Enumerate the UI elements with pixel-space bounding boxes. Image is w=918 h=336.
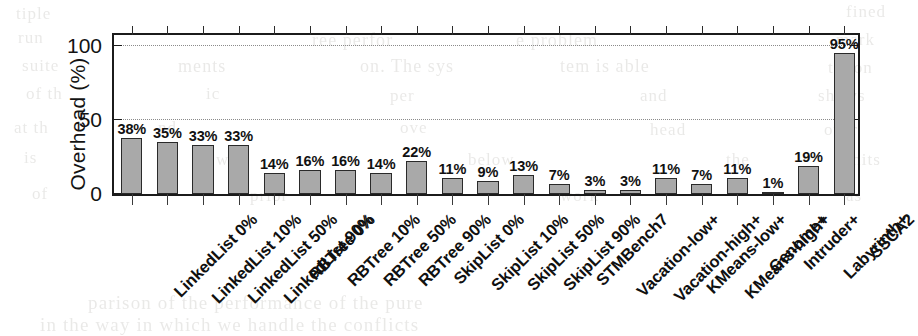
bar: 16% bbox=[335, 170, 356, 194]
top-tick-mark bbox=[809, 26, 810, 35]
bar: 33% bbox=[228, 145, 249, 194]
top-tick-mark bbox=[737, 26, 738, 35]
x-tick-mark bbox=[167, 194, 168, 205]
y-tick-label: 0 bbox=[46, 182, 102, 206]
bar-value-label: 38% bbox=[117, 121, 146, 137]
bar-value-label: 35% bbox=[153, 125, 182, 141]
bar: 19% bbox=[798, 166, 819, 194]
gridline bbox=[114, 119, 858, 120]
plot-area: 38%35%33%33%14%16%16%14%22%11%9%13%7%3%3… bbox=[112, 33, 860, 196]
bar: 11% bbox=[727, 178, 748, 194]
x-tick-mark bbox=[844, 194, 845, 205]
x-tick-mark bbox=[274, 194, 275, 205]
x-tick-mark bbox=[737, 194, 738, 205]
x-tick-mark bbox=[702, 194, 703, 205]
top-tick-mark bbox=[844, 26, 845, 35]
bar: 14% bbox=[370, 173, 391, 194]
top-tick-mark bbox=[559, 26, 560, 35]
bar: 16% bbox=[299, 170, 320, 194]
bar-value-label: 14% bbox=[367, 156, 396, 172]
bar: 11% bbox=[655, 178, 676, 194]
bar: 38% bbox=[121, 138, 142, 194]
x-tick-mark bbox=[773, 194, 774, 205]
x-tick-mark bbox=[666, 194, 667, 205]
bar-value-label: 19% bbox=[794, 149, 823, 165]
x-tick-mark bbox=[417, 194, 418, 205]
bar-value-label: 14% bbox=[260, 156, 289, 172]
bar: 33% bbox=[192, 145, 213, 194]
bar: 7% bbox=[691, 184, 712, 194]
bar-value-label: 16% bbox=[331, 153, 360, 169]
x-tick-mark bbox=[809, 194, 810, 205]
top-tick-mark bbox=[310, 26, 311, 35]
bar-value-label: 16% bbox=[296, 153, 325, 169]
x-tick-mark bbox=[488, 194, 489, 205]
top-tick-mark bbox=[346, 26, 347, 35]
x-tick-mark bbox=[524, 194, 525, 205]
bar-value-label: 33% bbox=[224, 128, 253, 144]
bar: 7% bbox=[549, 184, 570, 194]
top-tick-mark bbox=[167, 26, 168, 35]
bar: 95% bbox=[834, 53, 855, 194]
bar-value-label: 7% bbox=[691, 167, 712, 183]
top-tick-mark bbox=[702, 26, 703, 35]
bar-value-label: 11% bbox=[652, 161, 680, 177]
bar-value-label: 33% bbox=[189, 128, 218, 144]
top-tick-mark bbox=[239, 26, 240, 35]
bar-value-label: 3% bbox=[620, 173, 641, 189]
top-tick-mark bbox=[417, 26, 418, 35]
bar: 22% bbox=[406, 161, 427, 194]
top-tick-mark bbox=[274, 26, 275, 35]
x-tick-mark bbox=[203, 194, 204, 205]
bar-value-label: 11% bbox=[438, 161, 466, 177]
top-tick-mark bbox=[666, 26, 667, 35]
gridline bbox=[114, 45, 858, 46]
x-axis-category-labels: LinkedList 0%LinkedList 10%LinkedList 50… bbox=[112, 210, 860, 328]
x-tick-mark bbox=[452, 194, 453, 205]
bar-value-label: 3% bbox=[584, 173, 605, 189]
y-tick-label: 50 bbox=[46, 108, 102, 132]
top-tick-mark bbox=[381, 26, 382, 35]
top-tick-mark bbox=[452, 26, 453, 35]
top-tick-mark bbox=[595, 26, 596, 35]
x-tick-mark bbox=[595, 194, 596, 205]
bar: 13% bbox=[513, 175, 534, 194]
top-tick-mark bbox=[773, 26, 774, 35]
bar: 11% bbox=[442, 178, 463, 194]
y-tick-mark bbox=[114, 45, 122, 46]
bar-value-label: 22% bbox=[402, 144, 431, 160]
bar-value-label: 1% bbox=[763, 175, 784, 191]
x-tick-mark bbox=[630, 194, 631, 205]
bar: 14% bbox=[264, 173, 285, 194]
bar-value-label: 9% bbox=[478, 164, 499, 180]
x-tick-mark bbox=[310, 194, 311, 205]
bar: 35% bbox=[157, 142, 178, 194]
bar-value-label: 7% bbox=[549, 167, 570, 183]
x-tick-mark bbox=[559, 194, 560, 205]
x-tick-mark bbox=[381, 194, 382, 205]
top-tick-mark bbox=[203, 26, 204, 35]
x-tick-mark bbox=[132, 194, 133, 205]
top-tick-mark bbox=[630, 26, 631, 35]
bar-value-label: 95% bbox=[830, 36, 859, 52]
top-tick-mark bbox=[524, 26, 525, 35]
bar-value-label: 13% bbox=[509, 158, 538, 174]
top-tick-mark bbox=[132, 26, 133, 35]
y-tick-label: 100 bbox=[46, 34, 102, 58]
bar: 9% bbox=[477, 181, 498, 194]
top-tick-mark bbox=[488, 26, 489, 35]
bar-value-label: 11% bbox=[723, 161, 751, 177]
x-tick-mark bbox=[239, 194, 240, 205]
x-tick-mark bbox=[346, 194, 347, 205]
